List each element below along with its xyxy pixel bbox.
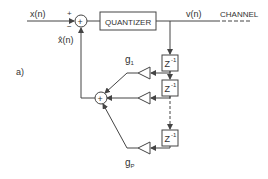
gain-label-1: g1 <box>125 54 135 66</box>
gain-amplifier-p <box>138 142 150 154</box>
difference-summer: + <box>75 15 87 27</box>
svg-text:Z: Z <box>165 84 171 94</box>
plus-sign: + <box>67 9 72 18</box>
svg-text:-1: -1 <box>171 132 177 138</box>
prediction-summer: + <box>95 92 107 104</box>
svg-text:QUANTIZER: QUANTIZER <box>105 18 151 27</box>
svg-text:-1: -1 <box>171 82 177 88</box>
gain-line-p <box>103 104 138 148</box>
gain-amplifier-1 <box>138 67 150 79</box>
gain-label-p: gP <box>125 157 135 169</box>
svg-text:-1: -1 <box>171 57 177 63</box>
quantizer-block: QUANTIZER <box>100 12 156 30</box>
feedback-line <box>81 28 95 98</box>
delay-block-1: Z -1 <box>162 55 178 71</box>
output-label: v(n) <box>186 9 202 19</box>
channel-label: CHANNEL <box>220 10 259 19</box>
svg-text:+: + <box>78 17 83 27</box>
svg-text:Z: Z <box>165 134 171 144</box>
delay-block-p: Z -1 <box>162 130 178 146</box>
svg-text:+: + <box>98 94 103 104</box>
dpcm-block-diagram: a) x(n) + − + x̂(n) QUANTIZER v(n) CHANN… <box>0 0 268 179</box>
gain-line-1 <box>105 73 138 93</box>
delay-block-2: Z -1 <box>162 80 178 96</box>
svg-text:Z: Z <box>165 59 171 69</box>
gain-amplifier-2 <box>138 92 150 104</box>
minus-sign: − <box>67 22 72 31</box>
input-label: x(n) <box>30 9 46 19</box>
panel-label: a) <box>16 67 24 77</box>
prediction-label: x̂(n) <box>58 35 74 45</box>
